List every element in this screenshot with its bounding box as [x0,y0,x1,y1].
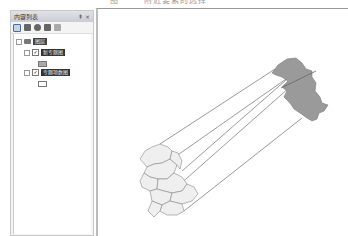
collapse-icon[interactable] [24,70,30,76]
layer-symbol-empty[interactable] [38,81,47,87]
layer-tree: 图层 ✓ 新专题图 ✓ 专题项数图 [13,34,91,234]
close-icon[interactable]: × [85,13,90,20]
map-view[interactable] [96,8,348,236]
list-by-visibility-icon[interactable] [34,24,41,31]
layer-label[interactable]: 新专题图 [41,49,65,56]
toc-title: 内容列表 [14,12,38,21]
collapse-icon[interactable] [16,39,22,45]
pin-icon[interactable]: ⇞ [78,13,83,20]
collapse-icon[interactable] [24,50,30,56]
map-canvas [98,9,348,236]
list-by-drawing-order-icon[interactable] [13,24,21,32]
layers-group-row[interactable]: 图层 [16,38,47,45]
layer-label[interactable]: 专题项数图 [41,69,70,76]
figure-caption: 图 · · · 附近要素的选择 [110,0,260,4]
source-polygon [140,144,198,217]
layers-icon [24,39,31,44]
layer-visibility-checkbox[interactable]: ✓ [32,69,39,76]
list-by-source-icon[interactable] [24,24,31,31]
options-icon[interactable] [54,24,61,31]
layer-row[interactable]: ✓ 专题项数图 [24,69,70,76]
toc-toolbar [11,22,93,34]
layer-row[interactable]: ✓ 新专题图 [24,49,65,56]
table-of-contents-panel: 内容列表 ⇞ × 图层 ✓ 新专题图 ✓ 专题项数图 [10,10,94,236]
list-by-selection-icon[interactable] [44,24,51,31]
target-polygon [272,58,328,121]
layers-group-label[interactable]: 图层 [33,38,47,45]
toc-title-bar: 内容列表 ⇞ × [11,11,93,22]
layer-symbol-filled[interactable] [38,61,47,67]
layer-visibility-checkbox[interactable]: ✓ [32,49,39,56]
